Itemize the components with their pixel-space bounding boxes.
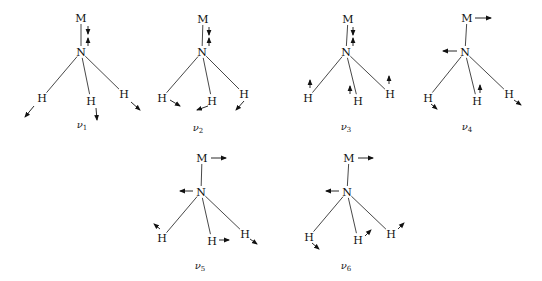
bond-n-h xyxy=(314,197,344,232)
mode-v4: MNHHHν4 xyxy=(423,12,521,134)
bond-m-n xyxy=(465,24,466,46)
atom-h: H xyxy=(157,232,167,245)
bond-n-h xyxy=(432,57,461,93)
atom-m: M xyxy=(461,12,472,25)
atom-m: M xyxy=(197,13,208,26)
atom-m: M xyxy=(342,13,353,26)
atom-h: H xyxy=(304,231,314,244)
mode-label: ν4 xyxy=(462,121,473,134)
atom-n: N xyxy=(196,186,206,199)
bond-n-h xyxy=(466,58,475,94)
atom-h: H xyxy=(119,88,129,101)
atom-n: N xyxy=(197,46,207,59)
atom-n: N xyxy=(342,186,352,199)
atom-h: H xyxy=(239,88,249,101)
mode-label: ν6 xyxy=(341,260,352,273)
bond-n-h xyxy=(347,58,356,94)
atom-h: H xyxy=(240,228,250,241)
atom-h: H xyxy=(303,92,313,105)
bond-m-n xyxy=(347,164,348,186)
atom-n: N xyxy=(341,46,351,59)
atom-m: M xyxy=(196,152,207,165)
mode-v2: MNHHHν2 xyxy=(157,13,249,135)
mode-label: ν5 xyxy=(195,260,206,273)
bond-n-h xyxy=(202,198,210,234)
atom-h: H xyxy=(37,92,47,105)
displacement-arrow-icon xyxy=(131,102,140,110)
bond-m-n xyxy=(346,25,347,46)
atom-m: M xyxy=(75,12,86,25)
bond-n-h xyxy=(167,57,198,93)
bond-n-h xyxy=(469,56,504,89)
bond-n-h xyxy=(206,56,239,89)
bond-n-h xyxy=(203,58,210,94)
mode-label: ν3 xyxy=(341,121,352,134)
bond-m-n xyxy=(201,164,202,186)
bond-n-h xyxy=(47,57,78,93)
bond-n-h xyxy=(85,56,119,89)
atom-n: N xyxy=(460,46,470,59)
bond-m-n xyxy=(202,25,203,46)
atom-h: H xyxy=(353,234,363,247)
atom-n: N xyxy=(76,46,86,59)
displacement-arrow-icon xyxy=(398,223,404,229)
bond-n-h xyxy=(82,58,89,94)
bond-n-h xyxy=(348,198,356,233)
mode-v5: MNHHHν5 xyxy=(154,152,257,273)
atom-h: H xyxy=(86,95,96,108)
mode-v6: MNHHHν6 xyxy=(304,152,404,273)
atom-h: H xyxy=(386,228,396,241)
mode-v1: MNHHHν1 xyxy=(25,12,140,132)
displacement-arrow-icon xyxy=(25,106,34,117)
bond-n-h xyxy=(312,57,342,93)
displacement-arrow-icon xyxy=(365,230,371,236)
atom-h: H xyxy=(207,95,217,108)
displacement-arrow-icon xyxy=(170,100,180,106)
displacement-arrow-icon xyxy=(514,100,521,105)
atom-h: H xyxy=(353,95,363,108)
atom-h: H xyxy=(385,88,395,101)
displacement-arrow-icon xyxy=(431,104,437,109)
atom-h: H xyxy=(157,92,167,105)
atom-h: H xyxy=(423,92,433,105)
atom-m: M xyxy=(343,152,354,165)
displacement-arrow-icon xyxy=(154,224,160,229)
displacement-arrow-icon xyxy=(197,106,208,110)
bond-n-h xyxy=(167,197,198,233)
displacement-arrow-icon xyxy=(96,108,97,120)
displacement-arrow-icon xyxy=(236,101,244,110)
bond-n-h xyxy=(205,196,240,229)
atom-h: H xyxy=(472,95,482,108)
normal-modes-diagram: MNHHHν1MNHHHν2MNHHHν3MNHHHν4MNHHHν5MNHHH… xyxy=(0,0,542,281)
bond-n-h xyxy=(350,56,385,89)
mode-label: ν1 xyxy=(77,119,88,132)
atom-h: H xyxy=(504,88,514,101)
bond-n-h xyxy=(351,196,386,229)
displacement-arrow-icon xyxy=(312,243,319,249)
mode-v3: MNHHHν3 xyxy=(303,13,395,134)
displacement-arrow-icon xyxy=(250,239,257,244)
atom-h: H xyxy=(207,235,217,248)
mode-label: ν2 xyxy=(193,122,204,135)
